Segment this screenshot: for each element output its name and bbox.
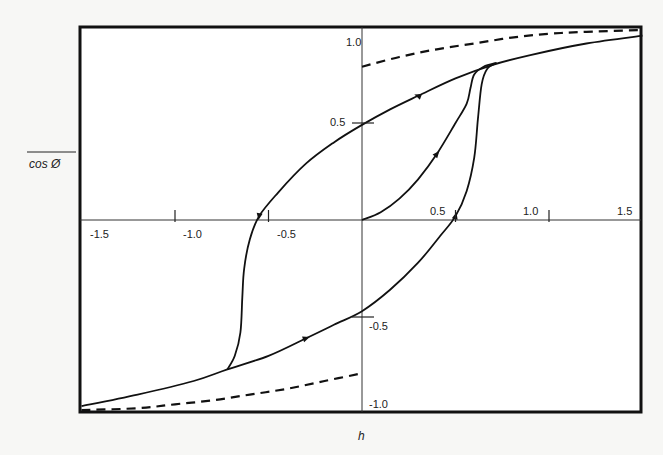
- y-tick-label: 0.5: [330, 116, 345, 128]
- x-tick-label: -1.0: [183, 228, 202, 240]
- y-tick-label: -0.5: [369, 320, 388, 332]
- x-tick-label: 1.5: [617, 205, 632, 217]
- y-axis-title: cos Ø: [27, 152, 76, 171]
- y-tick-label: -1.0: [369, 398, 388, 410]
- hysteresis-chart: -1.5-1.0-0.50.51.01.51.00.5-0.5-1.0 cos …: [0, 0, 663, 455]
- y-tick-label: 1.0: [346, 36, 361, 48]
- x-tick-label: -1.5: [90, 228, 109, 240]
- x-tick-label: 0.5: [430, 205, 445, 217]
- y-axis-label: cos Ø: [29, 157, 61, 171]
- x-axis-label: h: [358, 429, 365, 443]
- x-tick-label: 1.0: [523, 205, 538, 217]
- x-tick-label: -0.5: [277, 228, 296, 240]
